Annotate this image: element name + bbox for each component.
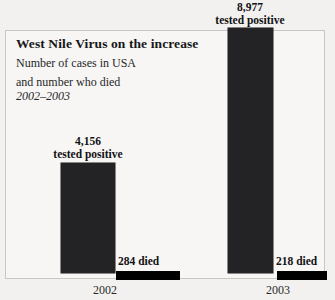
bar-2003-tested-positive [228,28,273,273]
bar-value-2003-positive: 8,977 [200,1,300,14]
bar-label-2003-died: 218 died [276,255,317,267]
chart-title: West Nile Virus on the increase [16,36,216,52]
west-nile-virus-chart: West Nile Virus on the increase Number o… [0,0,335,300]
bar-label-2002-died: 284 died [118,255,159,267]
bar-2002-tested-positive [61,163,115,273]
bar-2003-died [277,271,327,280]
axis-label-2002: 2002 [70,283,140,298]
bar-label-2003-positive: 8,977 tested positive [200,1,300,27]
bar-2002-died [116,271,180,280]
chart-subtitle-line-2: and number who died [16,75,216,90]
chart-period: 2002–2003 [16,89,216,104]
axis-label-2003: 2003 [243,283,313,298]
chart-subtitle-line-1: Number of cases in USA [16,56,216,71]
chart-text-block: West Nile Virus on the increase Number o… [16,36,216,104]
bar-value-2002-positive: 4,156 [38,135,138,148]
bar-caption-2003-positive: tested positive [200,14,300,27]
bar-caption-2002-positive: tested positive [38,148,138,161]
bar-label-2002-positive: 4,156 tested positive [38,135,138,161]
